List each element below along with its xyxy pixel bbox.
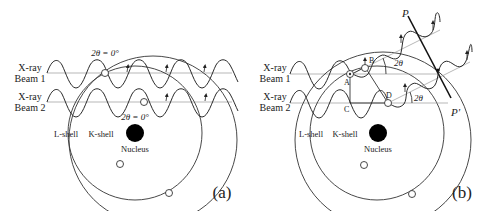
beam1-label-line2: Beam 1 — [15, 73, 46, 84]
angle-label-mid: 2θ = 0° — [121, 112, 149, 122]
beam2-label-line2: Beam 2 — [15, 102, 46, 113]
wavefront-p-label: P — [401, 7, 409, 19]
electron-point-b — [362, 65, 369, 72]
beam2-incident-wave — [290, 90, 388, 118]
point-c-label: C — [344, 105, 349, 114]
beam2-label-line2: Beam 2 — [260, 102, 291, 113]
l-shell-label: L-shell — [54, 129, 79, 139]
nucleus — [369, 124, 387, 142]
electron-k-shell — [117, 161, 124, 168]
electron-point-a-dot — [349, 73, 351, 75]
wavefront-intersection — [436, 68, 439, 71]
wavefront-p-prime-label: P' — [450, 106, 461, 118]
beam2-label-line1: X-ray — [263, 91, 286, 102]
angle-label-top: 2θ = 0° — [91, 48, 119, 58]
k-shell-label: K-shell — [88, 129, 114, 139]
beam1-label-line2: Beam 1 — [260, 73, 291, 84]
point-a-label: A — [344, 78, 350, 87]
arrow-icon — [166, 95, 167, 101]
point-d-label: D — [386, 91, 392, 100]
panel-a-label: (a) — [213, 183, 232, 202]
angle-label-2: 2θ — [414, 93, 424, 103]
k-shell-label: K-shell — [332, 129, 358, 139]
xray-scattering-diagram: X-ray Beam 1 X-ray Beam 2 2θ = 0° 2θ = 0… — [0, 0, 478, 211]
panel-a: X-ray Beam 1 X-ray Beam 2 2θ = 0° 2θ = 0… — [15, 48, 238, 211]
panel-b: X-ray Beam 1 X-ray Beam 2 A B C D 2θ 2θ … — [260, 7, 472, 211]
beam2-diffracted-ref — [388, 62, 470, 103]
electron-k-shell — [361, 162, 368, 169]
nucleus — [126, 124, 144, 142]
beam1-wave — [47, 60, 238, 88]
point-b-label: B — [369, 56, 374, 65]
electron-l-shell — [409, 191, 416, 198]
beam1-label-line1: X-ray — [18, 62, 41, 73]
arrow-icon — [166, 66, 167, 72]
panel-b-label: (b) — [452, 183, 472, 202]
arrow-icon — [204, 66, 205, 72]
diagram-canvas: X-ray Beam 1 X-ray Beam 2 2θ = 0° 2θ = 0… — [0, 0, 478, 211]
beam1-label-line1: X-ray — [263, 62, 286, 73]
electron-point-d — [385, 100, 392, 107]
electron-scatter-2 — [141, 99, 148, 106]
beam2-label-line1: X-ray — [18, 91, 41, 102]
nucleus-label: Nucleus — [364, 144, 392, 154]
beam1-incident-wave — [290, 61, 352, 89]
nucleus-label: Nucleus — [121, 144, 149, 154]
electron-scatter-1 — [102, 70, 109, 77]
arrow-icon — [205, 95, 206, 101]
angle-arc-2 — [410, 92, 412, 103]
l-shell-label: L-shell — [299, 129, 324, 139]
electron-l-shell — [166, 190, 173, 197]
angle-label-1: 2θ — [394, 58, 404, 68]
wavefront-line — [408, 16, 451, 98]
